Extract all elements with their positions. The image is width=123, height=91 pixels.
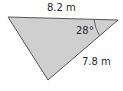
angle-label: 28° [76, 26, 94, 36]
triangle-diagram [0, 0, 123, 91]
top-side-length-label: 8.2 m [47, 3, 76, 13]
triangle-shape [8, 17, 118, 80]
right-side-length-label: 7.8 m [82, 57, 111, 67]
